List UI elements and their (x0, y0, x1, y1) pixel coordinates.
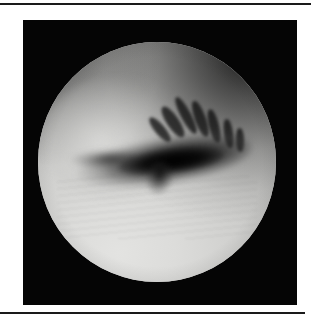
figure-frame (23, 20, 297, 305)
scope-vignette (38, 42, 276, 282)
document-page (0, 0, 311, 324)
horizontal-rule-bottom (0, 312, 305, 314)
horizontal-rule-top (0, 3, 311, 5)
arthroscopic-image (38, 42, 276, 282)
